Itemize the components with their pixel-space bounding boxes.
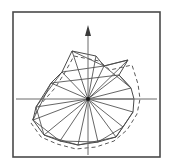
figure-background <box>0 0 172 168</box>
figure-container <box>0 0 172 168</box>
origin-marker <box>86 97 90 101</box>
radial-shape-figure <box>0 0 172 168</box>
